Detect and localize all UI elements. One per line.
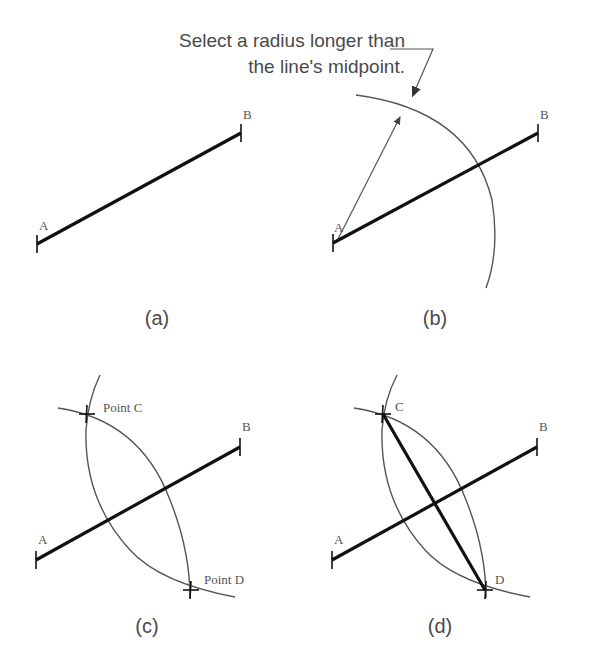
callout: Select a radius longer than the line's m…: [179, 30, 433, 95]
cross-d-v: [485, 581, 486, 599]
label-b: B: [242, 419, 251, 434]
arc-from-b: [354, 408, 486, 598]
panel-b: A B (b): [333, 95, 549, 329]
arc-from-a: [356, 95, 495, 288]
bisector-construction-diagram: Select a radius longer than the line's m…: [0, 0, 596, 659]
label-point-c: Point C: [103, 400, 142, 415]
label-d: D: [495, 572, 504, 587]
segment-ab: [37, 133, 241, 244]
label-a: A: [38, 532, 48, 547]
perpendicular-bisector-cd: [383, 414, 485, 590]
panel-c: Point C Point D A B (c): [36, 375, 251, 637]
label-b: B: [243, 107, 252, 122]
segment-ab: [36, 447, 240, 560]
arc-from-a: [382, 375, 530, 597]
label-a: A: [39, 218, 49, 233]
panel-d: C D A B (d): [332, 375, 548, 637]
cross-d-v: [190, 581, 191, 599]
caption-a: (a): [145, 307, 169, 329]
caption-d: (d): [428, 615, 452, 637]
label-b: B: [540, 107, 549, 122]
panel-a: A B (a): [37, 107, 252, 329]
caption-c: (c): [135, 615, 158, 637]
callout-line-2: the line's midpoint.: [248, 56, 405, 77]
label-a: A: [334, 220, 344, 235]
label-b: B: [539, 419, 548, 434]
label-c: C: [395, 399, 404, 414]
callout-line-1: Select a radius longer than: [179, 30, 405, 51]
label-point-d: Point D: [204, 572, 244, 587]
caption-b: (b): [423, 307, 447, 329]
cross-c-v: [86, 405, 87, 423]
cross-c-v: [382, 405, 383, 423]
label-a: A: [334, 532, 344, 547]
arc-from-b: [58, 408, 190, 598]
